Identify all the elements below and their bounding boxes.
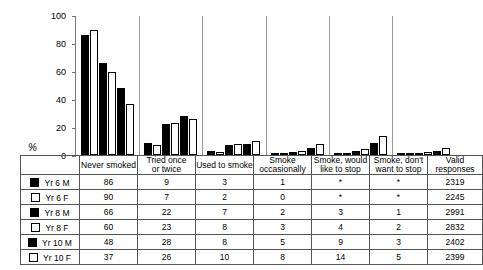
table-header-line: or twice	[138, 165, 195, 174]
table-cell-r1-c0: 90	[80, 190, 138, 205]
bar-group-0	[76, 16, 139, 155]
table-cell-r5-c6: 2399	[428, 250, 483, 265]
bar-yr-6-m-1	[144, 143, 152, 156]
bar-yr-8-f-0	[108, 72, 116, 155]
table-cell-r4-c0: 48	[80, 235, 138, 250]
table-header-line: like to stop	[312, 165, 369, 174]
table-row: Yr 10 F37261081452399	[21, 250, 483, 265]
bar-yr-10-m-2	[243, 144, 251, 155]
table-cell-r3-c5: 2	[370, 220, 428, 235]
table-header-4: Smoke, wouldlike to stop	[312, 156, 370, 175]
table-cell-r1-c1: 7	[138, 190, 196, 205]
group-separator-3	[266, 16, 267, 155]
legend-swatch-filled-icon	[28, 238, 37, 247]
bar-group-1	[139, 16, 202, 155]
table-cell-r3-c1: 23	[138, 220, 196, 235]
legend-swatch-filled-icon	[30, 178, 39, 187]
table-cell-r2-c6: 2991	[428, 205, 483, 220]
table-header-line: want to stop	[370, 165, 427, 174]
table-cell-r4-c4: 9	[312, 235, 370, 250]
table-cell-r1-c5: *	[370, 190, 428, 205]
table-header-line: responses	[428, 165, 482, 174]
legend-label: Yr 6 F	[45, 193, 68, 203]
bar-yr-10-m-4	[370, 143, 378, 156]
bar-yr-8-f-1	[171, 123, 179, 155]
legend-cell-5: Yr 10 F	[21, 250, 80, 265]
table-cell-r2-c5: 1	[370, 205, 428, 220]
table-cell-r0-c4: *	[312, 175, 370, 190]
table-header-5: Smoke, don'twant to stop	[370, 156, 428, 175]
table-header-3: Smokeoccasionally	[254, 156, 312, 175]
table-cell-r0-c0: 86	[80, 175, 138, 190]
table-cell-r5-c3: 8	[254, 250, 312, 265]
table-header-line: occasionally	[254, 165, 311, 174]
y-tick-label-40: 40	[56, 96, 66, 105]
table-cell-r4-c1: 28	[138, 235, 196, 250]
table-cell-r2-c3: 2	[254, 205, 312, 220]
table-cell-r3-c3: 3	[254, 220, 312, 235]
legend-swatch-open-icon	[31, 193, 40, 202]
y-axis-label: %	[28, 142, 36, 153]
bar-yr-8-m-2	[225, 145, 233, 155]
group-separator-1	[139, 16, 140, 155]
bar-group-5	[392, 16, 455, 155]
bar-yr-10-f-5	[442, 148, 450, 155]
legend-label: Yr 10 M	[42, 238, 72, 248]
table-header-0: Never smoked	[80, 156, 138, 175]
legend-swatch-filled-icon	[30, 208, 39, 217]
table-corner-cell	[21, 156, 80, 175]
bar-yr-6-f-0	[90, 30, 98, 155]
bar-yr-10-m-3	[307, 148, 315, 155]
table-cell-r2-c1: 22	[138, 205, 196, 220]
table-body: Yr 6 M86931**2319Yr 6 F90720**2245Yr 8 M…	[21, 175, 483, 265]
table-cell-r3-c0: 60	[80, 220, 138, 235]
bar-group-4	[329, 16, 392, 155]
table-cell-r2-c0: 66	[80, 205, 138, 220]
table-row: Yr 8 F602383422832	[21, 220, 483, 235]
legend-cell-1: Yr 6 F	[21, 190, 80, 205]
bar-yr-10-f-0	[126, 104, 134, 155]
table-cell-r3-c6: 2832	[428, 220, 483, 235]
y-tick-label-60: 60	[56, 68, 66, 77]
table-cell-r5-c1: 26	[138, 250, 196, 265]
group-separator-5	[392, 16, 393, 155]
table-cell-r2-c2: 7	[196, 205, 254, 220]
table-header-line: Never smoked	[80, 161, 137, 170]
bar-yr-8-m-1	[162, 124, 170, 155]
y-axis-ticks: 100806040200	[48, 10, 72, 160]
y-tick-label-100: 100	[51, 12, 66, 21]
table-header-1: Tried onceor twice	[138, 156, 196, 175]
bar-yr-8-m-0	[99, 63, 107, 155]
legend-cell-2: Yr 8 M	[21, 205, 80, 220]
legend-cell-3: Yr 8 F	[21, 220, 80, 235]
legend-label: Yr 10 F	[43, 253, 71, 263]
bar-yr-10-f-2	[252, 141, 260, 155]
table-header-6: Validresponses	[428, 156, 483, 175]
table-cell-r5-c2: 10	[196, 250, 254, 265]
bar-yr-10-f-1	[189, 119, 197, 155]
table-header-line: Used to smoke	[196, 161, 253, 170]
table-cell-r5-c0: 37	[80, 250, 138, 265]
bar-yr-8-f-2	[234, 144, 242, 155]
bar-yr-10-f-4	[379, 136, 387, 155]
table-cell-r0-c5: *	[370, 175, 428, 190]
table-cell-r1-c6: 2245	[428, 190, 483, 205]
data-table: Never smokedTried onceor twiceUsed to sm…	[20, 155, 483, 265]
table-cell-r0-c3: 1	[254, 175, 312, 190]
table-cell-r4-c2: 8	[196, 235, 254, 250]
table-cell-r5-c4: 14	[312, 250, 370, 265]
y-tick-label-80: 80	[56, 40, 66, 49]
table-cell-r0-c1: 9	[138, 175, 196, 190]
table-cell-r5-c5: 5	[370, 250, 428, 265]
legend-cell-4: Yr 10 M	[21, 235, 80, 250]
y-tick-label-20: 20	[56, 124, 66, 133]
table-cell-r1-c2: 2	[196, 190, 254, 205]
table-cell-r1-c3: 0	[254, 190, 312, 205]
legend-swatch-open-icon	[29, 253, 38, 262]
bar-yr-6-f-1	[153, 145, 161, 155]
table-cell-r0-c2: 3	[196, 175, 254, 190]
table-cell-r4-c3: 5	[254, 235, 312, 250]
group-separator-2	[202, 16, 203, 155]
bar-yr-10-m-1	[180, 116, 188, 155]
data-table-wrapper: Never smokedTried onceor twiceUsed to sm…	[20, 155, 460, 265]
